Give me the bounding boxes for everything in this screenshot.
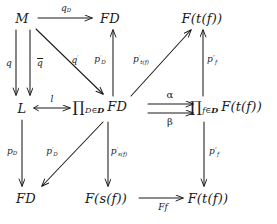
arrow-label-p-prime-D-down-sub: D bbox=[53, 151, 57, 157]
arrow-label-q-prime-mark: ′ bbox=[77, 54, 78, 61]
arrow-label-Ff: Ff bbox=[158, 203, 168, 212]
arrow-label-qD-sub: D bbox=[67, 7, 71, 13]
node-M: M bbox=[15, 12, 29, 25]
arrow-label-q: q bbox=[6, 59, 12, 68]
node-FD-bottom-label: FD bbox=[16, 191, 36, 206]
node-L: L bbox=[18, 102, 27, 115]
node-FD-top: FD bbox=[100, 12, 120, 25]
arrow-label-alpha: α bbox=[167, 90, 174, 100]
node-prod-FD-index-text: D∈ bbox=[85, 107, 97, 116]
node-prod-FD-body: FD bbox=[107, 99, 127, 114]
arrow-label-q-prime: q′ bbox=[71, 55, 78, 65]
arrow-label-p-prime-D-down: p′D bbox=[46, 147, 58, 158]
arrow-label-q-bar-overline: q bbox=[37, 58, 43, 68]
arrow-label-l-base: l bbox=[51, 94, 54, 104]
node-FD-top-label: FD bbox=[100, 11, 120, 26]
arrow-qprime bbox=[36, 29, 103, 94]
arrow-label-p-prime-sf-sub: s(f) bbox=[118, 151, 127, 157]
node-FD-bottom: FD bbox=[16, 192, 36, 205]
node-prod-FD: ∏D∈DFD bbox=[73, 100, 127, 115]
node-Fsf-bottom-label: F(s(f)) bbox=[85, 191, 127, 206]
arrow-label-Ff-base: Ff bbox=[158, 202, 168, 212]
node-Ftf-top: F(t(f)) bbox=[182, 12, 223, 25]
arrow-label-pD-sub: D bbox=[13, 150, 17, 156]
arrow-label-p-dprime-f-down-sub: f bbox=[217, 151, 219, 157]
arrow-label-p-prime-D-up-sub: D bbox=[101, 59, 105, 65]
arrow-label-p-dprime-f-down: p″f bbox=[209, 147, 219, 158]
arrow-label-q-bar: q bbox=[37, 58, 43, 68]
node-prod-Ftf-index-text: f∈ bbox=[202, 107, 211, 116]
arrow-label-pD: pD bbox=[7, 147, 17, 157]
arrow-label-l: l bbox=[51, 95, 54, 104]
arrow-label-qD: qD bbox=[61, 4, 71, 14]
node-prod-Ftf-index: f∈D bbox=[202, 107, 218, 116]
product-symbol: ∏ bbox=[190, 98, 202, 116]
node-Ftf-bottom: F(t(f)) bbox=[188, 192, 229, 205]
arrow-label-p-prime-tf: p′t(f) bbox=[133, 55, 149, 66]
arrow-label-q-base: q bbox=[6, 58, 12, 68]
node-Ftf-bottom-label: F(t(f)) bbox=[188, 191, 229, 206]
product-symbol: ∏ bbox=[73, 98, 85, 116]
node-prod-Ftf-body: F(t(f)) bbox=[221, 99, 262, 114]
arrow-label-p-dprime-f-up: p″f bbox=[207, 55, 217, 66]
node-Ftf-top-F: F bbox=[182, 11, 191, 26]
node-prod-Ftf-category: D bbox=[211, 106, 218, 116]
arrow-label-p-dprime-f-up-sub: f bbox=[215, 59, 217, 65]
arrow-label-p-prime-sf: p′s(f) bbox=[111, 147, 127, 158]
arrow-label-p-prime-tf-sub: t(f) bbox=[140, 59, 149, 65]
node-M-label: M bbox=[15, 11, 29, 26]
commutative-diagram: M FD F(t(f)) L ∏D∈DFD ∏f∈DF(t(f)) FD F(s… bbox=[0, 0, 277, 224]
arrow-label-alpha-base: α bbox=[167, 89, 174, 100]
arrow-label-q-bar-base: q bbox=[37, 58, 43, 68]
node-L-label: L bbox=[18, 101, 27, 116]
node-prod-FD-index: D∈D bbox=[85, 107, 104, 116]
node-Fsf-bottom: F(s(f)) bbox=[85, 192, 127, 205]
arrow-label-p-prime-D-up: p′D bbox=[94, 55, 106, 66]
arrow-label-beta-base: β bbox=[167, 116, 173, 127]
node-prod-FD-category: D bbox=[97, 106, 104, 116]
node-prod-Ftf: ∏f∈DF(t(f)) bbox=[190, 100, 262, 115]
node-Ftf-top-arg: (t(f)) bbox=[191, 11, 223, 26]
arrow-label-beta: β bbox=[167, 117, 173, 127]
